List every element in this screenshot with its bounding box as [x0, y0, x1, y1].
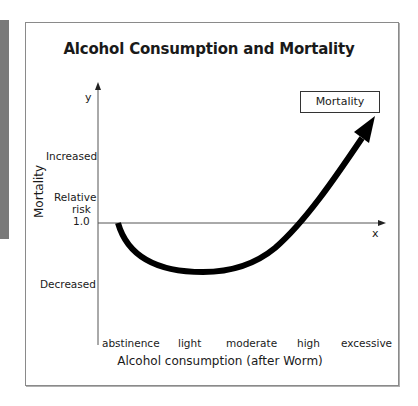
y-axis-title: Mortality [32, 165, 46, 218]
y-axis-symbol: y [85, 91, 92, 104]
y-tick-risk: risk [72, 203, 91, 215]
x-tick-light: light [178, 337, 201, 349]
x-tick-excessive: excessive [341, 337, 392, 349]
x-axis-symbol: x [372, 227, 379, 240]
x-axis-title: Alcohol consumption (after Worm) [0, 354, 418, 368]
x-tick-high: high [297, 337, 320, 349]
legend-mortality: Mortality [300, 91, 380, 113]
y-tick-decreased: Decreased [40, 278, 96, 290]
x-tick-abstinence: abstinence [102, 337, 160, 349]
y-tick-one: 1.0 [73, 215, 90, 227]
x-tick-moderate: moderate [226, 337, 277, 349]
y-tick-relative: Relative [54, 191, 96, 203]
curve-arrowhead-icon [354, 116, 375, 143]
y-tick-increased: Increased [46, 150, 97, 162]
mortality-curve [118, 138, 362, 272]
